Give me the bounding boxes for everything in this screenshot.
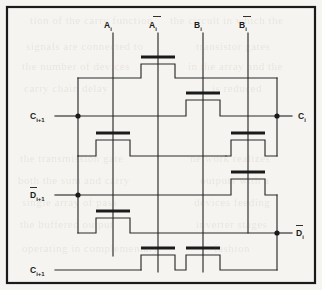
- node-dot-c-i: [274, 113, 279, 118]
- figure-container: tion of the carry functionthe circuit in…: [0, 0, 322, 290]
- circuit-schematic-svg: Ai Ai Bi Bi Ci+1 Di+1 Ci+1: [0, 0, 322, 290]
- node-dot-d-bar-i: [274, 230, 279, 235]
- label-c-i-plus-1-top-sub: i+1: [36, 117, 45, 123]
- label-d-bar-i-plus-1-sub: i+1: [36, 196, 45, 202]
- node-dot-c-i-plus-1: [75, 113, 80, 118]
- label-c-i-plus-1-bottom-sub: i+1: [36, 271, 45, 277]
- node-dot-d-bar-i-plus-1: [75, 192, 80, 197]
